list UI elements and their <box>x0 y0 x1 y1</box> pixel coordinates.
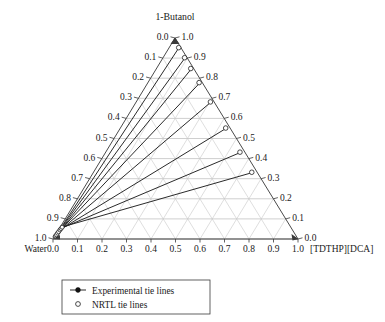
legend-label-experimental: Experimental tie lines <box>92 286 175 296</box>
corner-label-ionic-liquid: [TDTHP][DCA] <box>310 244 373 254</box>
tie-line-markers <box>53 45 254 238</box>
right-axis-tick-label: 0.1 <box>292 213 304 223</box>
left-axis-tick-label: 0.0 <box>157 32 169 42</box>
bottom-axis-tick-label: 0.4 <box>145 244 157 254</box>
left-axis-tick-label: 0.5 <box>96 133 108 143</box>
bottom-axis-tick-label: 0.1 <box>72 244 84 254</box>
right-axis-tick-label: 0.8 <box>206 72 218 82</box>
left-axis-tick-label: 0.9 <box>47 213 59 223</box>
corner-label-water: Water <box>25 244 48 254</box>
bottom-axis-tick-label: 0.2 <box>96 244 108 254</box>
right-axis-tick-label: 0.6 <box>231 112 243 122</box>
bottom-axis-tick-label: 0.6 <box>194 244 206 254</box>
legend-marker-nrtl <box>76 302 81 307</box>
bottom-axis-tick-label: 0.9 <box>268 244 280 254</box>
nrtl-tie-line-marker <box>249 170 254 175</box>
left-axis-tick-label: 0.8 <box>59 193 71 203</box>
legend: Experimental tie lines NRTL tie lines <box>62 280 210 314</box>
bottom-axis-tick-label: 0.7 <box>219 244 231 254</box>
left-axis-tick-label: 0.7 <box>71 173 83 183</box>
axis-tick-labels: 0.00.10.20.30.40.50.60.70.80.91.01.00.90… <box>35 32 317 254</box>
right-axis-tick-label: 0.5 <box>243 133 255 143</box>
nrtl-tie-line-marker <box>238 150 243 155</box>
left-axis-tick-label: 0.1 <box>144 52 156 62</box>
ternary-plot-svg: 0.00.10.20.30.40.50.60.70.80.91.01.00.90… <box>0 0 385 322</box>
nrtl-tie-line-marker <box>60 225 64 229</box>
left-axis-tick-label: 1.0 <box>35 233 47 243</box>
right-axis-tick-label: 0.3 <box>268 173 280 183</box>
triangle-edges <box>53 38 299 241</box>
left-axis-tick-label: 0.3 <box>120 92 132 102</box>
tie-lines-layer <box>55 48 252 237</box>
bottom-axis-tick-label: 0.8 <box>243 244 255 254</box>
right-axis-tick-label: 0.0 <box>305 233 317 243</box>
nrtl-tie-line-marker <box>197 80 202 85</box>
bottom-axis-tick-label: 0.3 <box>121 244 133 254</box>
right-axis-tick-label: 0.7 <box>218 92 230 102</box>
right-axis-tick-label: 0.9 <box>194 52 206 62</box>
nrtl-tie-line-marker <box>176 45 181 50</box>
experimental-tie-line <box>55 48 179 237</box>
left-axis-tick-label: 0.4 <box>108 112 120 122</box>
nrtl-tie-line-marker <box>188 66 193 71</box>
left-axis-tick-label: 0.6 <box>83 153 95 163</box>
left-axis-tick-label: 0.2 <box>132 72 144 82</box>
axis-ticks <box>49 37 303 243</box>
nrtl-tie-line-marker <box>223 126 228 131</box>
legend-marker-experimental <box>76 288 81 293</box>
grid-layer <box>65 58 286 239</box>
bottom-axis-tick-label: 0.0 <box>47 244 59 254</box>
bottom-axis-tick-label: 1.0 <box>292 244 304 254</box>
legend-label-nrtl: NRTL tie lines <box>92 300 148 310</box>
ternary-diagram-root: 0.00.10.20.30.40.50.60.70.80.91.01.00.90… <box>0 0 385 322</box>
right-axis-tick-label: 0.4 <box>255 153 267 163</box>
right-axis-tick-label: 0.2 <box>280 193 292 203</box>
nrtl-tie-line-marker <box>182 55 187 60</box>
bottom-axis-tick-label: 0.5 <box>170 244 182 254</box>
experimental-tie-line <box>60 128 226 229</box>
right-axis-tick-label: 1.0 <box>182 32 194 42</box>
apex-label-butanol: 1-Butanol <box>155 11 194 22</box>
nrtl-tie-line-marker <box>208 100 213 105</box>
